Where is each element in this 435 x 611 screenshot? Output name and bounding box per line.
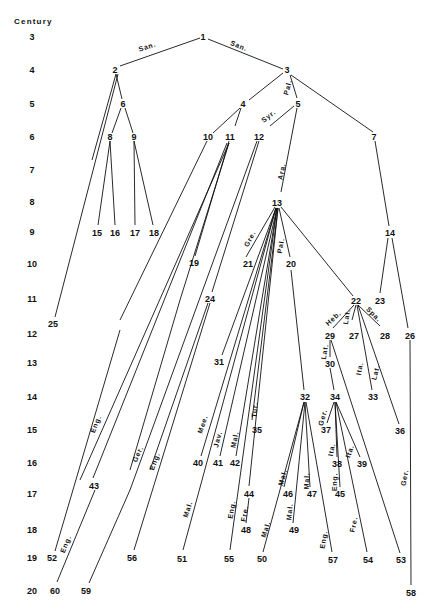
edge-language-label: Ger. <box>317 408 328 426</box>
century-tick: 5 <box>29 99 34 109</box>
edge-line <box>180 143 229 300</box>
node-26: 26 <box>405 331 415 341</box>
node-44: 44 <box>244 489 254 499</box>
node-22: 22 <box>351 296 361 306</box>
node-42: 42 <box>230 458 240 468</box>
node-36: 36 <box>395 426 405 436</box>
node-32: 32 <box>300 392 310 402</box>
edge-language-label: Spa. <box>364 305 382 323</box>
century-tick: 16 <box>27 458 37 468</box>
century-tick: 13 <box>27 358 37 368</box>
edge-line <box>235 108 241 126</box>
edge-line <box>331 340 400 553</box>
node-46: 46 <box>283 489 293 499</box>
edge-language-label: Ger. <box>400 469 410 487</box>
edge-language-label: Lat. <box>320 343 330 360</box>
edge-line <box>222 208 276 355</box>
node-33: 33 <box>368 392 378 402</box>
edge-language-label: Mal. <box>260 520 272 538</box>
edge-language-label: Ita. <box>344 444 355 459</box>
node-30: 30 <box>325 359 335 369</box>
edge-language-label: Eng. <box>318 530 329 549</box>
node-31: 31 <box>214 357 224 367</box>
edge-line <box>291 270 304 390</box>
century-tick: 3 <box>29 32 34 42</box>
node-38: 38 <box>332 459 342 469</box>
edge-language-label: Eng. <box>148 451 162 471</box>
node-58: 58 <box>406 588 416 598</box>
century-tick: 20 <box>27 586 37 596</box>
edge-language-label: Tur. <box>250 402 258 418</box>
edge-language-label: Fre. <box>240 505 250 522</box>
node-15: 15 <box>92 228 102 238</box>
century-tick: 7 <box>29 165 34 175</box>
node-6: 6 <box>120 99 125 109</box>
edge-language-label: Pal. <box>276 237 286 254</box>
edge-line <box>130 300 180 470</box>
edge-language-label: Heb. <box>324 309 342 326</box>
node-10: 10 <box>203 132 213 142</box>
edge-line <box>120 38 200 66</box>
edge-line <box>150 303 208 470</box>
node-20: 20 <box>286 259 296 269</box>
edge-language-label: Mal. <box>229 431 239 449</box>
century-tick: 19 <box>27 553 37 563</box>
edge-line <box>134 141 153 225</box>
node-7: 7 <box>371 132 376 142</box>
edge-line <box>358 305 399 424</box>
edge-language-label: Gre. <box>243 230 257 248</box>
edge-language-label: Jav. <box>212 431 223 449</box>
node-27: 27 <box>349 331 359 341</box>
node-8: 8 <box>107 132 112 142</box>
node-52: 52 <box>47 553 57 563</box>
node-9: 9 <box>131 132 136 142</box>
edge-line <box>330 368 334 390</box>
node-28: 28 <box>380 331 390 341</box>
node-1: 1 <box>200 32 205 42</box>
node-4: 4 <box>240 99 245 109</box>
node-53: 53 <box>396 555 406 565</box>
node-3: 3 <box>284 65 289 75</box>
node-19: 19 <box>189 258 199 268</box>
century-tick: 10 <box>27 259 37 269</box>
node-48: 48 <box>241 525 251 535</box>
node-13: 13 <box>272 198 282 208</box>
edge-language-label: Mal. <box>285 503 293 520</box>
century-axis-title: Century <box>14 17 53 26</box>
edge-language-label: San. <box>138 41 157 53</box>
node-5: 5 <box>295 99 300 109</box>
node-56: 56 <box>127 553 137 563</box>
edge-language-label: Pal. <box>282 79 293 96</box>
edge-language-label: Lat. <box>342 308 352 325</box>
century-tick: 11 <box>27 294 37 304</box>
century-tick: 18 <box>27 525 37 535</box>
edge-line <box>112 108 121 133</box>
edge-line <box>327 402 334 423</box>
edge-line <box>375 141 389 226</box>
node-59: 59 <box>81 586 91 596</box>
node-37: 37 <box>321 425 331 435</box>
node-24: 24 <box>205 294 215 304</box>
edge-line <box>380 238 388 293</box>
edge-line <box>89 490 130 583</box>
node-12: 12 <box>254 132 264 142</box>
node-60: 60 <box>50 586 60 596</box>
edge-line <box>213 108 240 133</box>
node-21: 21 <box>243 259 253 269</box>
edge-line <box>392 238 408 328</box>
node-45: 45 <box>335 489 345 499</box>
node-39: 39 <box>357 459 367 469</box>
edge-language-label: Ger. <box>131 445 144 463</box>
edge-line <box>291 75 373 132</box>
edge-language-label: Mal. <box>182 500 194 518</box>
stemma-diagram: Century 34567891011121314151617181920 Sa… <box>0 0 435 611</box>
edge-line <box>98 141 110 225</box>
node-16: 16 <box>110 228 120 238</box>
node-11: 11 <box>225 132 235 142</box>
edge-language-label: Mal. <box>303 472 311 489</box>
node-57: 57 <box>328 555 338 565</box>
edge-line <box>57 490 95 582</box>
node-29: 29 <box>325 331 335 341</box>
node-17: 17 <box>130 228 140 238</box>
edge-language-label: Lat. <box>370 364 381 381</box>
